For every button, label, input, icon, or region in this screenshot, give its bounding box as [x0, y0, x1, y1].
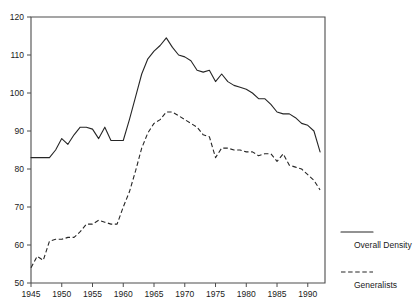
y-tick-label: 80 — [15, 164, 25, 174]
x-tick-label: 1945 — [22, 289, 41, 299]
y-tick-label: 100 — [10, 88, 24, 98]
x-tick-label: 1985 — [268, 289, 287, 299]
y-tick-label: 110 — [10, 50, 24, 60]
x-tick-label: 1990 — [298, 289, 317, 299]
y-tick-label: 50 — [15, 278, 25, 288]
x-tick-label: 1955 — [83, 289, 102, 299]
x-axis-tick-group: 1945195019551960196519701975198019851990 — [22, 283, 318, 299]
x-tick-label: 1980 — [237, 289, 256, 299]
axis-frame — [31, 17, 325, 283]
y-axis-tick-group: 5060708090100110120 — [10, 12, 31, 288]
chart-legend: Overall DensityGeneralists — [341, 232, 412, 290]
x-tick-label: 1970 — [175, 289, 194, 299]
x-tick-label: 1965 — [145, 289, 164, 299]
y-tick-label: 60 — [15, 240, 25, 250]
legend-label-overall-density: Overall Density — [354, 240, 412, 250]
series-line-overall-density — [31, 38, 320, 158]
y-tick-label: 70 — [15, 202, 25, 212]
y-tick-label: 120 — [10, 12, 24, 22]
chart-figure: 5060708090100110120 19451950195519601965… — [0, 0, 420, 303]
series-line-generalists — [31, 112, 320, 268]
y-tick-label: 90 — [15, 126, 25, 136]
legend-label-generalists: Generalists — [354, 280, 397, 290]
x-tick-label: 1950 — [52, 289, 71, 299]
x-tick-label: 1975 — [206, 289, 225, 299]
x-tick-label: 1960 — [114, 289, 133, 299]
line-chart-plot: 5060708090100110120 19451950195519601965… — [0, 0, 420, 303]
data-series-group — [31, 38, 320, 268]
